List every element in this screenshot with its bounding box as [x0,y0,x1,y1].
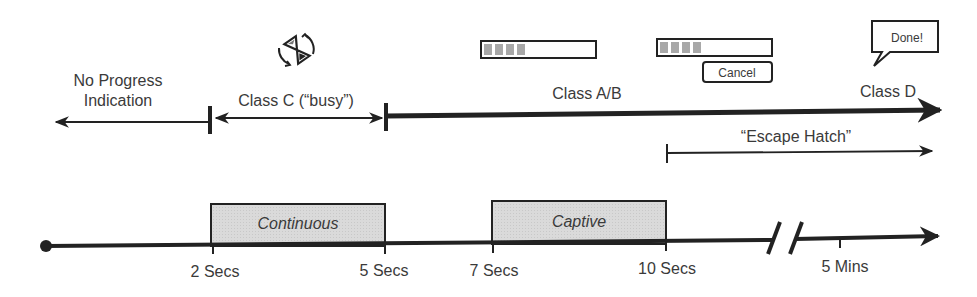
tick-label-5min: 5 Mins [821,258,868,275]
cancel-button[interactable]: Cancel [703,62,772,82]
class-abd-arrow [386,110,940,116]
progress-segment [517,44,525,55]
progress-segment [495,44,503,55]
captive-box: Captive [492,201,666,244]
tick-label-10s: 10 Secs [638,260,696,277]
progress-timeline-diagram: No Progress Indication Class C (“busy”) … [0,0,977,297]
progress-segment [693,42,701,53]
done-label: Done! [891,31,923,45]
captive-label: Captive [552,213,606,230]
progress-segment [506,44,514,55]
cancel-button-label: Cancel [718,66,755,80]
progress-segment [484,44,492,55]
axis-break-icon [768,222,802,254]
class-d-label: Class D [860,83,916,100]
progress-bar-a [481,41,596,58]
progress-segment [682,42,690,53]
tick-label-5s: 5 Secs [360,262,409,279]
bottom-axis-segment-2 [795,236,938,239]
progress-segment [671,42,679,53]
rotating-hourglass-icon [279,34,314,66]
no-progress-label-line1: No Progress [74,72,163,89]
progress-segment [660,42,668,53]
no-progress-label-line2: Indication [84,92,153,109]
continuous-box: Continuous [211,204,385,246]
escape-hatch-arrow [667,151,932,153]
class-ab-label: Class A/B [552,85,621,102]
continuous-label: Continuous [258,215,339,232]
tick-label-7s: 7 Secs [470,262,519,279]
progress-bar-b [657,39,772,56]
tick-label-2s: 2 Secs [191,263,240,280]
escape-hatch-label: “Escape Hatch” [741,128,851,145]
class-c-label: Class C (“busy”) [238,92,354,109]
done-speech-bubble: Done! [872,21,938,66]
